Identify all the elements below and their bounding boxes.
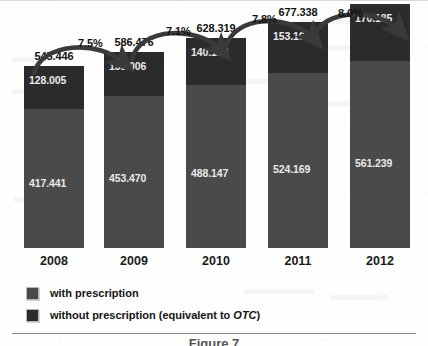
x-axis-tick-label: 2010 <box>202 254 230 268</box>
stacked-bar[interactable]: 133.006 453.470 <box>104 52 164 248</box>
legend-swatch-icon <box>26 287 39 300</box>
segment-value-label: 128.005 <box>29 74 66 86</box>
segment-value-label: 524.169 <box>273 163 310 175</box>
bar-group-2011[interactable]: 677.338 153.169 524.169 2011 <box>268 22 328 248</box>
legend-item-with-prescription[interactable]: with prescription <box>26 282 260 304</box>
segment-value-label: 153.169 <box>273 30 310 42</box>
growth-label-2009-2010: 7.1% <box>166 25 191 37</box>
segment-without-prescription[interactable]: 128.005 <box>24 66 84 109</box>
stacked-bar[interactable]: 170.185 561.239 <box>350 4 410 248</box>
stacked-bar[interactable]: 153.169 524.169 <box>268 22 328 248</box>
x-axis-tick-label: 2008 <box>40 254 68 268</box>
x-axis-line <box>12 333 416 335</box>
bar-group-2010[interactable]: 628.319 140.172 488.147 2010 <box>186 38 246 248</box>
growth-label-2011-2012: 8.0% <box>338 7 363 19</box>
segment-without-prescription[interactable]: 153.169 <box>268 22 328 73</box>
segment-value-label: 561.239 <box>355 157 392 169</box>
segment-without-prescription[interactable]: 140.172 <box>186 38 246 85</box>
x-axis-tick-label: 2012 <box>366 254 394 268</box>
legend: with prescription without prescription (… <box>26 282 260 326</box>
segment-with-prescription[interactable]: 488.147 <box>186 85 246 248</box>
scan-artifact <box>330 295 388 300</box>
bar-total-label: 628.319 <box>196 22 235 34</box>
figure-caption: Figure 7 <box>0 337 428 346</box>
legend-label-post: ) <box>257 309 261 321</box>
bar-group-2008[interactable]: 545.446 128.005 417.441 2008 <box>24 66 84 248</box>
bar-group-2009[interactable]: 586.476 133.006 453.470 2009 <box>104 52 164 248</box>
x-axis-tick-label: 2011 <box>284 254 311 268</box>
segment-value-label: 140.172 <box>191 46 228 58</box>
bar-group-2012[interactable]: 731.424 170.185 561.239 2012 <box>350 4 410 248</box>
growth-label-2010-2011: 7.8% <box>252 13 277 25</box>
segment-value-label: 133.006 <box>109 60 146 72</box>
segment-without-prescription[interactable]: 133.006 <box>104 52 164 96</box>
segment-with-prescription[interactable]: 453.470 <box>104 96 164 248</box>
bar-total-label: 586.476 <box>114 36 153 48</box>
segment-with-prescription[interactable]: 524.169 <box>268 73 328 248</box>
legend-label-pre: without prescription (equivalent to <box>50 309 233 321</box>
segment-value-label: 417.441 <box>29 177 66 189</box>
growth-label-2008-2009: 7.5% <box>78 37 103 49</box>
x-axis-tick-label: 2009 <box>120 254 148 268</box>
bar-total-label: 545.446 <box>34 50 73 62</box>
legend-item-without-prescription[interactable]: without prescription (equivalent to OTC) <box>26 304 260 326</box>
segment-value-label: 453.470 <box>109 172 146 184</box>
bar-total-label: 677.338 <box>278 6 317 18</box>
legend-label: with prescription <box>50 287 139 299</box>
segment-with-prescription[interactable]: 561.239 <box>350 61 410 248</box>
segment-with-prescription[interactable]: 417.441 <box>24 109 84 248</box>
stacked-bar[interactable]: 140.172 488.147 <box>186 38 246 248</box>
stacked-bar[interactable]: 128.005 417.441 <box>24 66 84 248</box>
plot-area: 545.446 128.005 417.441 2008 586.476 133… <box>0 1 428 261</box>
figure-container: 545.446 128.005 417.441 2008 586.476 133… <box>0 0 428 346</box>
legend-label: without prescription (equivalent to OTC) <box>50 309 260 321</box>
legend-label-italic: OTC <box>233 309 256 321</box>
legend-swatch-icon <box>26 309 39 322</box>
segment-value-label: 488.147 <box>191 167 228 179</box>
